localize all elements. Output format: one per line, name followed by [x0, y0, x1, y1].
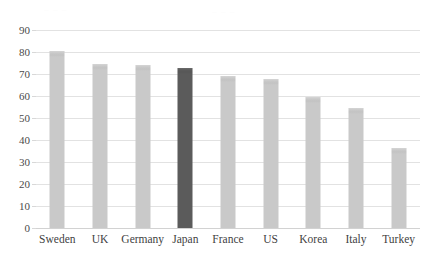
- y-axis-tick-label: 40: [19, 135, 30, 146]
- y-axis-tick-mark: [32, 228, 36, 229]
- bar-japan: [178, 68, 193, 228]
- bar-turkey: [391, 148, 406, 228]
- y-axis-tick-label: 70: [19, 69, 30, 80]
- x-axis-label-turkey: Turkey: [377, 231, 420, 247]
- bar-slot: [292, 30, 335, 228]
- bar-slot: [207, 30, 250, 228]
- bar-slot: [377, 30, 420, 228]
- bar-sweden: [50, 51, 65, 228]
- bar-france: [220, 76, 235, 228]
- y-axis-tick-label: 20: [19, 179, 30, 190]
- y-axis-tick-label: 80: [19, 47, 30, 58]
- y-axis-tick-label: 50: [19, 113, 30, 124]
- bar-slot: [36, 30, 79, 228]
- bar-italy: [348, 108, 363, 228]
- bar-korea: [306, 97, 321, 228]
- gridline: [36, 228, 420, 229]
- y-axis-tick-label: 30: [19, 157, 30, 168]
- x-axis-label-korea: Korea: [292, 231, 335, 247]
- x-axis-label-france: France: [207, 231, 250, 247]
- scan-artifact-left: ~ ~ ~: [44, 6, 67, 15]
- x-axis-label-us: US: [249, 231, 292, 247]
- bar-chart: ~ ~ ~ ~ ~ ~ 9080706050403020100 SwedenUK…: [0, 0, 439, 257]
- y-axis-tick-label: 0: [25, 223, 31, 234]
- x-axis-label-germany: Germany: [121, 231, 164, 247]
- bar-slot: [249, 30, 292, 228]
- y-axis-tick-label: 90: [19, 25, 30, 36]
- x-axis-label-uk: UK: [79, 231, 122, 247]
- bar-us: [263, 79, 278, 228]
- bar-series: [36, 30, 420, 228]
- y-axis-tick-label: 60: [19, 91, 30, 102]
- bar-slot: [335, 30, 378, 228]
- bar-germany: [135, 65, 150, 228]
- x-axis-label-italy: Italy: [335, 231, 378, 247]
- x-axis-label-sweden: Sweden: [36, 231, 79, 247]
- y-axis-tick-label: 10: [19, 201, 30, 212]
- bar-slot: [164, 30, 207, 228]
- x-axis-label-japan: Japan: [164, 231, 207, 247]
- x-axis-labels: SwedenUKGermanyJapanFranceUSKoreaItalyTu…: [36, 231, 420, 253]
- plot-area: 9080706050403020100: [36, 30, 420, 228]
- bar-uk: [92, 64, 107, 228]
- bar-slot: [79, 30, 122, 228]
- bar-slot: [121, 30, 164, 228]
- scan-artifact-right: ~ ~ ~: [212, 8, 235, 17]
